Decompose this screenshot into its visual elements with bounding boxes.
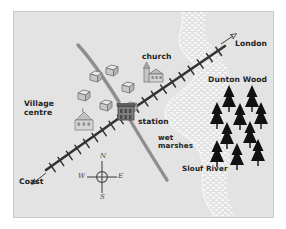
wet-marshes-line2: marshes	[158, 141, 193, 150]
compass-north-label: N	[100, 152, 106, 160]
village-centre-building	[75, 109, 93, 131]
slouf-river-shape	[165, 12, 235, 217]
church-building	[143, 62, 163, 82]
label-wet-marshes: wet marshes	[158, 134, 193, 150]
label-coast: Coast	[19, 178, 44, 187]
village-centre-line2: centre	[24, 108, 52, 117]
station-building	[117, 104, 135, 121]
label-slouf-river: Slouf River	[182, 165, 228, 173]
schematic-map-figure: Village centre church station Coast Lond…	[0, 0, 286, 229]
label-church: church	[142, 53, 172, 62]
london-arrow	[221, 34, 236, 44]
compass-west-label: W	[78, 172, 85, 180]
label-dunton-wood: Dunton Wood	[208, 76, 267, 85]
label-london: London	[235, 40, 267, 49]
map-canvas: Village centre church station Coast Lond…	[13, 11, 274, 218]
label-station: station	[138, 118, 169, 127]
compass-rose	[87, 161, 117, 193]
compass-east-label: E	[118, 172, 123, 180]
label-village-centre: Village centre	[24, 100, 54, 117]
compass-south-label: S	[100, 193, 105, 201]
